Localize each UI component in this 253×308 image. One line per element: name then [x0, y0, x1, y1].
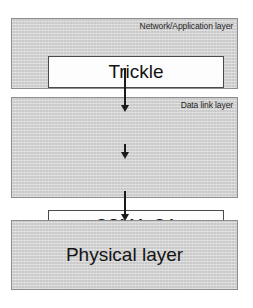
layer-caption-data-link: Data link layer	[181, 100, 233, 111]
layer-data-link: Data link layer CSMA-CA Radio Duty Cycli…	[11, 97, 238, 198]
layer-caption-network-application: Network/Application layer	[140, 21, 233, 32]
layer-physical: Physical layer	[11, 220, 238, 290]
protocol-box-trickle: Trickle	[48, 56, 224, 88]
protocol-box-trickle-label: Trickle	[108, 61, 163, 83]
layer-network-application: Network/Application layer Trickle	[11, 18, 238, 89]
protocol-box-physical-layer-label: Physical layer	[12, 221, 237, 289]
protocol-stack-diagram: Network/Application layer Trickle Data l…	[0, 0, 253, 308]
